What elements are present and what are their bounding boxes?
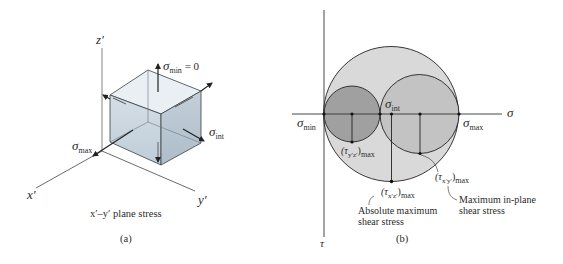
- panel-a-tag: (a): [120, 234, 132, 245]
- sigma-min-label: σmin = 0: [163, 59, 199, 75]
- sigma-int-label: σint: [209, 125, 224, 141]
- sigma-min-point-label: σmin: [297, 116, 316, 132]
- x-axis: [36, 151, 102, 188]
- figure-graphics: [0, 0, 563, 264]
- y-axis-label: y′: [198, 193, 207, 206]
- sigma-int-arrow-back: [201, 83, 212, 91]
- sigma-int-point-label: σint: [385, 97, 400, 113]
- absolute-max-shear-annotation: Absolute maximum shear stress: [358, 205, 437, 227]
- tau-axis-label: τ: [320, 238, 324, 249]
- x-axis-label: x′: [27, 188, 36, 201]
- in-plane-max-shear-annotation: Maximum in-plane shear stress: [459, 194, 536, 216]
- stress-cube: [110, 70, 201, 165]
- panel-b-tag: (b): [396, 234, 408, 245]
- sigma-max-point-label: σmax: [463, 116, 483, 132]
- z-axis-label: z′: [96, 33, 104, 46]
- tau-xy-max-label: (τx′y′)max: [435, 172, 469, 185]
- sigma-max-arrow-back: [103, 95, 110, 99]
- tau-yz-max-label: (τy′z′)max: [341, 146, 375, 159]
- sigma-axis-label: σ: [507, 106, 513, 119]
- tau-xz-max-label: (τx′z′)max: [381, 187, 415, 200]
- sigma-max-label: σmax: [72, 139, 92, 155]
- panel-a-caption: x′–y′ plane stress: [90, 209, 162, 220]
- mohr-circle-figure: z′ x′ y′ σmin = 0 σint σmax x′–y′ plane …: [0, 0, 563, 264]
